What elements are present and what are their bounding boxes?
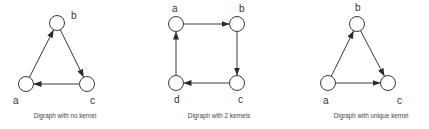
node-a [321,76,336,91]
node-c [80,77,95,92]
graph-no-kernel: abc [13,10,95,106]
graph-two-kernels: abcd [169,3,246,105]
node-a [169,17,184,32]
digraph-kernels-figure: abc abcd abc Digraph with no kernel Digr… [0,0,429,129]
caption-unique-kernel: Digraph with unique kernel [334,112,409,120]
node-c [230,76,245,91]
node-a [19,77,34,92]
node-label-b: b [239,3,245,14]
node-b [230,17,245,32]
graph-unique-kernel: abc [321,2,403,106]
node-label-c: c [238,94,243,105]
node-label-c: c [90,95,95,106]
node-label-d: d [174,94,180,105]
node-b [50,16,65,31]
node-b [350,17,365,32]
caption-no-kernel: Digraph with no kernel [34,112,97,120]
node-d [169,76,184,91]
edge-a-to-b [331,31,353,76]
node-label-a: a [13,95,19,106]
node-label-a: a [323,95,329,106]
node-label-b: b [71,10,77,21]
node-label-b: b [355,2,361,13]
node-label-c: c [397,95,402,106]
node-c [381,76,396,91]
edge-b-to-c [60,30,83,77]
edge-b-to-c [360,31,384,76]
caption-two-kernels: Digraph with 2 kernels [188,112,250,120]
edge-a-to-b [29,30,53,77]
node-label-a: a [172,3,178,14]
